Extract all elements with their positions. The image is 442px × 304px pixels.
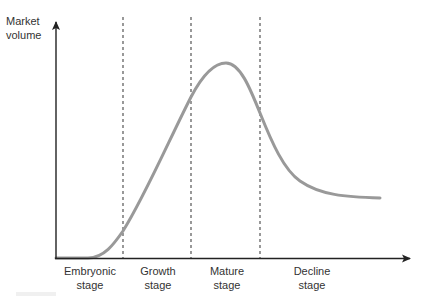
stage-label-decline-line1: Decline xyxy=(272,264,352,278)
y-axis-label-line1: Market xyxy=(6,14,41,28)
stage-label-growth: Growth stage xyxy=(118,264,198,292)
y-axis-label-line2: volume xyxy=(6,28,41,42)
y-axis-label: Market volume xyxy=(6,14,41,42)
stage-label-mature-line1: Mature xyxy=(187,264,267,278)
stage-label-decline-line2: stage xyxy=(272,278,352,292)
stage-label-mature: Mature stage xyxy=(187,264,267,292)
stage-label-decline: Decline stage xyxy=(272,264,352,292)
stage-label-growth-line2: stage xyxy=(118,278,198,292)
stage-label-growth-line1: Growth xyxy=(118,264,198,278)
stage-label-mature-line2: stage xyxy=(187,278,267,292)
life-cycle-chart xyxy=(0,0,442,304)
market-volume-curve xyxy=(56,63,380,258)
faint-figure-caption-artifact xyxy=(16,292,56,296)
